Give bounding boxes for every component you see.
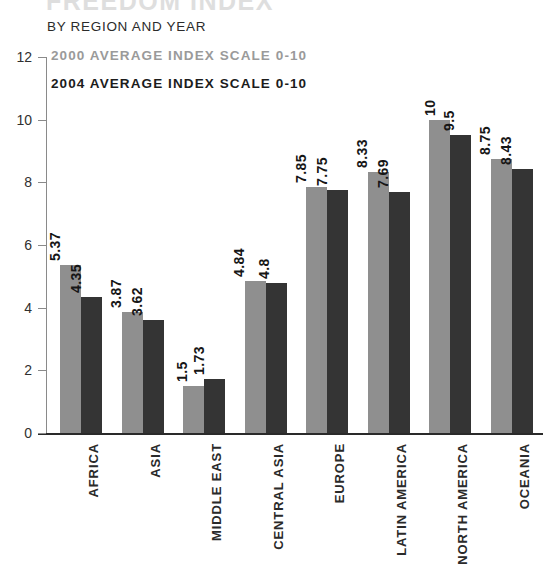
y-axis-tick [38,308,46,309]
bar-value-label: 4.35 [67,264,83,293]
category-label: MIDDLE EAST [209,443,224,541]
bar-group: 8.758.43 [491,57,533,433]
y-axis-label: 12 [16,49,32,65]
bar-2004: 3.62 [143,320,164,433]
x-axis-line [38,433,543,435]
bar-2000: 7.85 [306,187,327,433]
bar-value-label: 5.37 [46,232,62,261]
y-axis-label: 4 [24,300,32,316]
chart-subtitle: BY REGION AND YEAR [47,19,206,34]
bar-value-label: 9.5 [440,111,456,132]
bar-value-label: 1.5 [173,361,189,382]
y-axis-label: 8 [24,174,32,190]
bar-value-label: 7.85 [292,154,308,183]
bar-2004: 7.75 [327,190,348,433]
bar-2000: 1.5 [183,386,204,433]
y-axis-label: 0 [24,425,32,441]
bar-value-label: 10 [421,99,437,115]
bar-2004: 8.43 [512,169,533,433]
bar-value-label: 7.75 [313,157,329,186]
category-label: LATIN AMERICA [394,443,409,556]
y-axis-label: 6 [24,237,32,253]
bar-2004: 4.8 [266,283,287,433]
y-axis-label: 10 [16,112,32,128]
category-label: NORTH AMERICA [455,443,470,565]
bar-value-label: 1.73 [190,346,206,375]
y-axis-tick [38,245,46,246]
category-label: EUROPE [332,443,347,503]
y-axis-tick [38,370,46,371]
bar-2000: 3.87 [122,312,143,433]
y-axis-tick [38,433,46,434]
bar-2004: 7.69 [389,192,410,433]
bar-value-label: 8.75 [477,126,493,155]
bar-value-label: 3.62 [129,287,145,316]
category-label: OCEANIA [517,443,532,509]
y-axis-tick [38,120,46,121]
bar-value-label: 8.33 [354,139,370,168]
bar-2000: 8.75 [491,159,512,433]
bar-group: 109.5 [429,57,471,433]
bar-group: 4.844.8 [245,57,287,433]
bar-2000: 8.33 [368,172,389,433]
bar-2000: 4.84 [245,281,266,433]
category-label: AFRICA [86,443,101,498]
bar-group: 5.374.35 [60,57,102,433]
bar-2004: 9.5 [450,135,471,433]
category-label: CENTRAL ASIA [271,443,286,550]
bar-value-label: 8.43 [498,136,514,165]
category-label: ASIA [148,443,163,478]
bar-2004: 1.73 [204,379,225,433]
y-axis-tick [38,57,46,58]
y-axis-label: 2 [24,362,32,378]
bar-group: 3.873.62 [122,57,164,433]
bar-value-label: 4.8 [256,258,272,279]
plot-area: 024681012 5.374.353.873.621.51.734.844.8… [46,57,546,433]
bar-value-label: 4.84 [231,249,247,278]
chart-title: FREEDOM INDEX [46,0,274,16]
bar-group: 8.337.69 [368,57,410,433]
bar-2004: 4.35 [81,297,102,433]
bar-chart: FREEDOM INDEX BY REGION AND YEAR 2000 AV… [0,0,549,578]
bar-value-label: 3.87 [108,279,124,308]
bar-2000: 10 [429,120,450,433]
bar-group: 7.857.75 [306,57,348,433]
y-axis-tick [38,182,46,183]
bar-value-label: 7.69 [375,159,391,188]
bar-group: 1.51.73 [183,57,225,433]
